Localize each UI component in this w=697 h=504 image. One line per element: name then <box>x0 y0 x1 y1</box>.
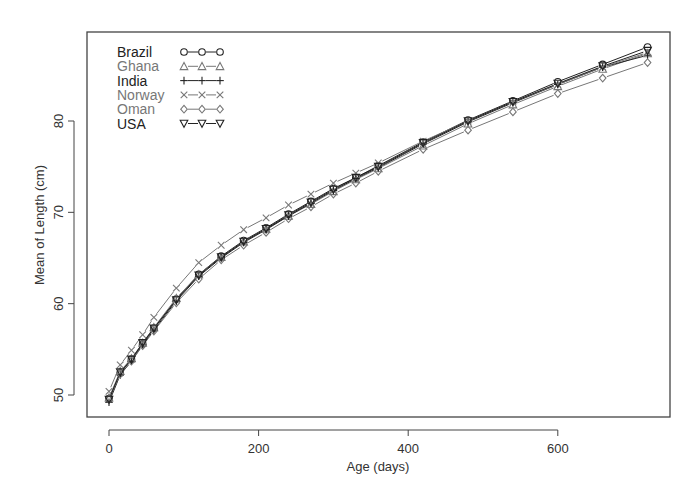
x-marker-icon <box>139 331 146 338</box>
plus-marker-icon <box>198 77 206 85</box>
x-marker-icon <box>195 259 202 266</box>
plus-marker-icon <box>216 77 224 85</box>
y-tick-label: 80 <box>51 114 66 128</box>
series-line-segment <box>157 302 174 324</box>
series-line-segment <box>337 181 351 189</box>
series-ghana <box>105 50 651 401</box>
diamond-marker-icon <box>644 59 651 67</box>
diamond-marker-icon <box>181 105 188 113</box>
x-marker-icon <box>173 285 180 292</box>
x-marker-icon <box>240 226 247 233</box>
series-oman <box>106 59 651 404</box>
series-line-segment <box>157 304 174 325</box>
triangle-marker-icon <box>198 63 206 70</box>
x-marker-icon <box>199 92 206 99</box>
series-line-segment <box>607 56 643 66</box>
series-line-segment <box>517 84 554 100</box>
series-line-segment <box>179 278 195 295</box>
x-tick-label: 400 <box>397 441 419 456</box>
series-line-segment <box>248 230 263 238</box>
series-line-segment <box>315 193 330 201</box>
circle-marker-icon <box>199 49 206 56</box>
series-line-segment <box>562 69 598 83</box>
triangle-down-marker-icon <box>644 47 652 54</box>
series-line-segment <box>225 245 240 255</box>
series-line-segment <box>315 185 329 192</box>
series-usa <box>105 47 651 403</box>
x-marker-icon <box>263 215 270 222</box>
triangle-marker-icon <box>180 63 188 70</box>
line-chart: 0200400600 50607080 Age (days) Mean of L… <box>0 0 697 504</box>
plus-marker-icon <box>180 77 188 85</box>
series-line-segment <box>270 207 285 215</box>
plot-frame <box>87 32 670 417</box>
diamond-marker-icon <box>199 105 206 113</box>
y-tick-label: 50 <box>51 388 66 402</box>
legend-label: USA <box>117 116 146 132</box>
x-tick-label: 0 <box>105 441 112 456</box>
series-india <box>105 51 651 406</box>
series-line-segment <box>382 148 419 167</box>
series-line-segment <box>179 282 195 299</box>
x-marker-icon <box>128 347 135 354</box>
x-axis-title: Age (days) <box>347 459 410 474</box>
y-axis-title: Mean of Length (cm) <box>32 165 47 285</box>
series-line-segment <box>382 145 419 165</box>
diamond-marker-icon <box>555 90 562 98</box>
series-line-segment <box>315 192 330 200</box>
triangle-marker-icon <box>216 63 224 70</box>
x-marker-icon <box>181 92 188 99</box>
series-line-segment <box>472 105 509 121</box>
y-tick-label: 60 <box>51 296 66 310</box>
series-line-segment <box>248 231 263 239</box>
legend: BrazilGhanaIndiaNorwayOmanUSA <box>117 44 224 132</box>
series-line-segment <box>202 248 217 260</box>
x-marker-icon <box>218 242 225 249</box>
series-line-segment <box>517 88 554 103</box>
x-marker-icon <box>308 191 315 198</box>
triangle-down-marker-icon <box>198 120 206 127</box>
triangle-down-marker-icon <box>216 120 224 127</box>
series-line-segment <box>472 106 509 122</box>
series-line-segment <box>562 68 598 82</box>
x-tick-label: 600 <box>547 441 569 456</box>
y-axis: 50607080 <box>51 114 74 402</box>
circle-marker-icon <box>181 49 188 56</box>
triangle-down-marker-icon <box>180 120 188 127</box>
series-line-segment <box>270 217 285 226</box>
series-line-segment <box>157 304 174 326</box>
series-line-segment <box>157 306 174 327</box>
series-line-segment <box>427 123 464 141</box>
series-line-segment <box>157 292 174 314</box>
series-norway <box>106 49 651 394</box>
series-line-segment <box>607 52 643 65</box>
series-line-segment <box>427 124 464 142</box>
series-line-segment <box>293 196 307 203</box>
series-line-segment <box>225 232 240 242</box>
diamond-marker-icon <box>217 105 224 113</box>
series-line-segment <box>248 220 262 228</box>
series-brazil <box>106 44 651 402</box>
x-axis: 0200400600 <box>105 430 568 456</box>
x-marker-icon <box>151 314 158 321</box>
circle-marker-icon <box>217 49 224 56</box>
x-marker-icon <box>285 202 292 209</box>
x-tick-label: 200 <box>248 441 270 456</box>
series-line-segment <box>382 143 419 161</box>
diamond-marker-icon <box>510 108 517 116</box>
series-line-segment <box>472 104 509 120</box>
diamond-marker-icon <box>599 74 606 82</box>
y-tick-label: 70 <box>51 205 66 219</box>
series-line-segment <box>202 260 217 273</box>
legend-item-usa: USA <box>117 116 224 132</box>
series-line-segment <box>292 205 307 213</box>
series-line-segment <box>562 80 598 93</box>
series-line-segment <box>382 146 419 166</box>
x-marker-icon <box>217 92 224 99</box>
series-line-segment <box>202 261 217 274</box>
